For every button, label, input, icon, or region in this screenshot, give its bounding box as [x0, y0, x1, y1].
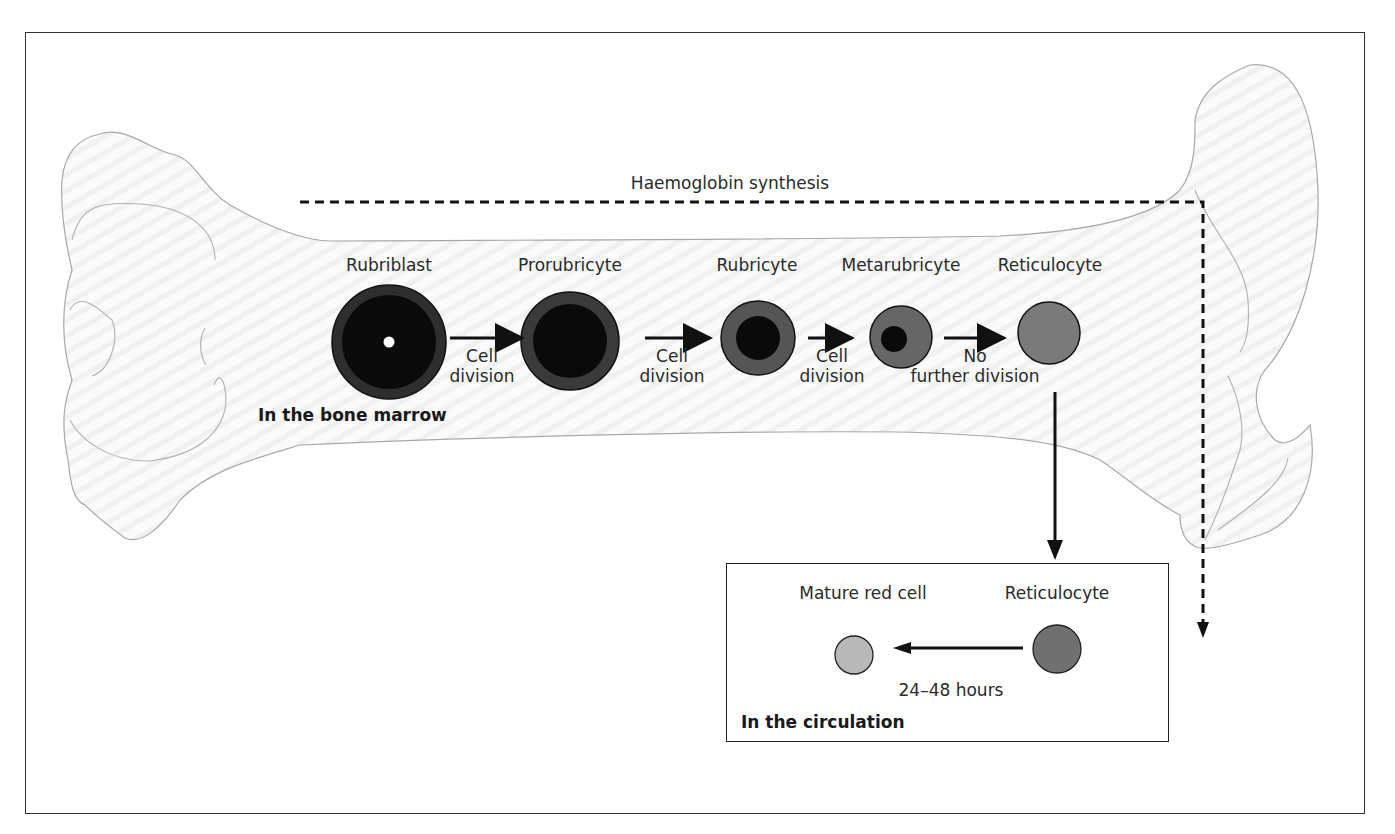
stage-label-reticulocyte: Reticulocyte — [998, 255, 1103, 275]
stage-label-rubricyte: Rubricyte — [717, 255, 798, 275]
marrow-location-label: In the bone marrow — [258, 405, 447, 425]
transition-label: No further division — [910, 346, 1039, 386]
circulation-box: Mature red cell Reticulocyte 24–48 hours… — [726, 563, 1169, 742]
circulation-location-label: In the circulation — [741, 712, 905, 732]
arrow-head-icon — [1047, 540, 1063, 560]
stage-label-rubriblast: Rubriblast — [346, 255, 432, 275]
bone-shape — [62, 65, 1319, 549]
stage-label-prorubricyte: Prorubricyte — [518, 255, 622, 275]
cell-rubricyte — [721, 301, 795, 375]
transition-label: Cell division — [799, 346, 864, 386]
stage-label-metarubricyte: Metarubricyte — [841, 255, 960, 275]
arrow-head-icon — [893, 642, 911, 654]
circulation-reticulocyte-label: Reticulocyte — [1005, 583, 1110, 603]
cell-prorubricyte — [521, 292, 619, 390]
transition-label: Cell division — [639, 346, 704, 386]
maturation-duration-label: 24–48 hours — [899, 680, 1004, 700]
cell-mature-red — [835, 636, 873, 674]
haemoglobin-synthesis-label: Haemoglobin synthesis — [631, 173, 829, 193]
bone-illustration — [0, 0, 1395, 834]
cell-reticulocyte-circulating — [1033, 625, 1081, 673]
transition-label: Cell division — [449, 346, 514, 386]
mature-red-cell-label: Mature red cell — [799, 583, 927, 603]
arrow-head-icon — [1197, 622, 1209, 638]
cell-rubriblast — [332, 285, 446, 399]
